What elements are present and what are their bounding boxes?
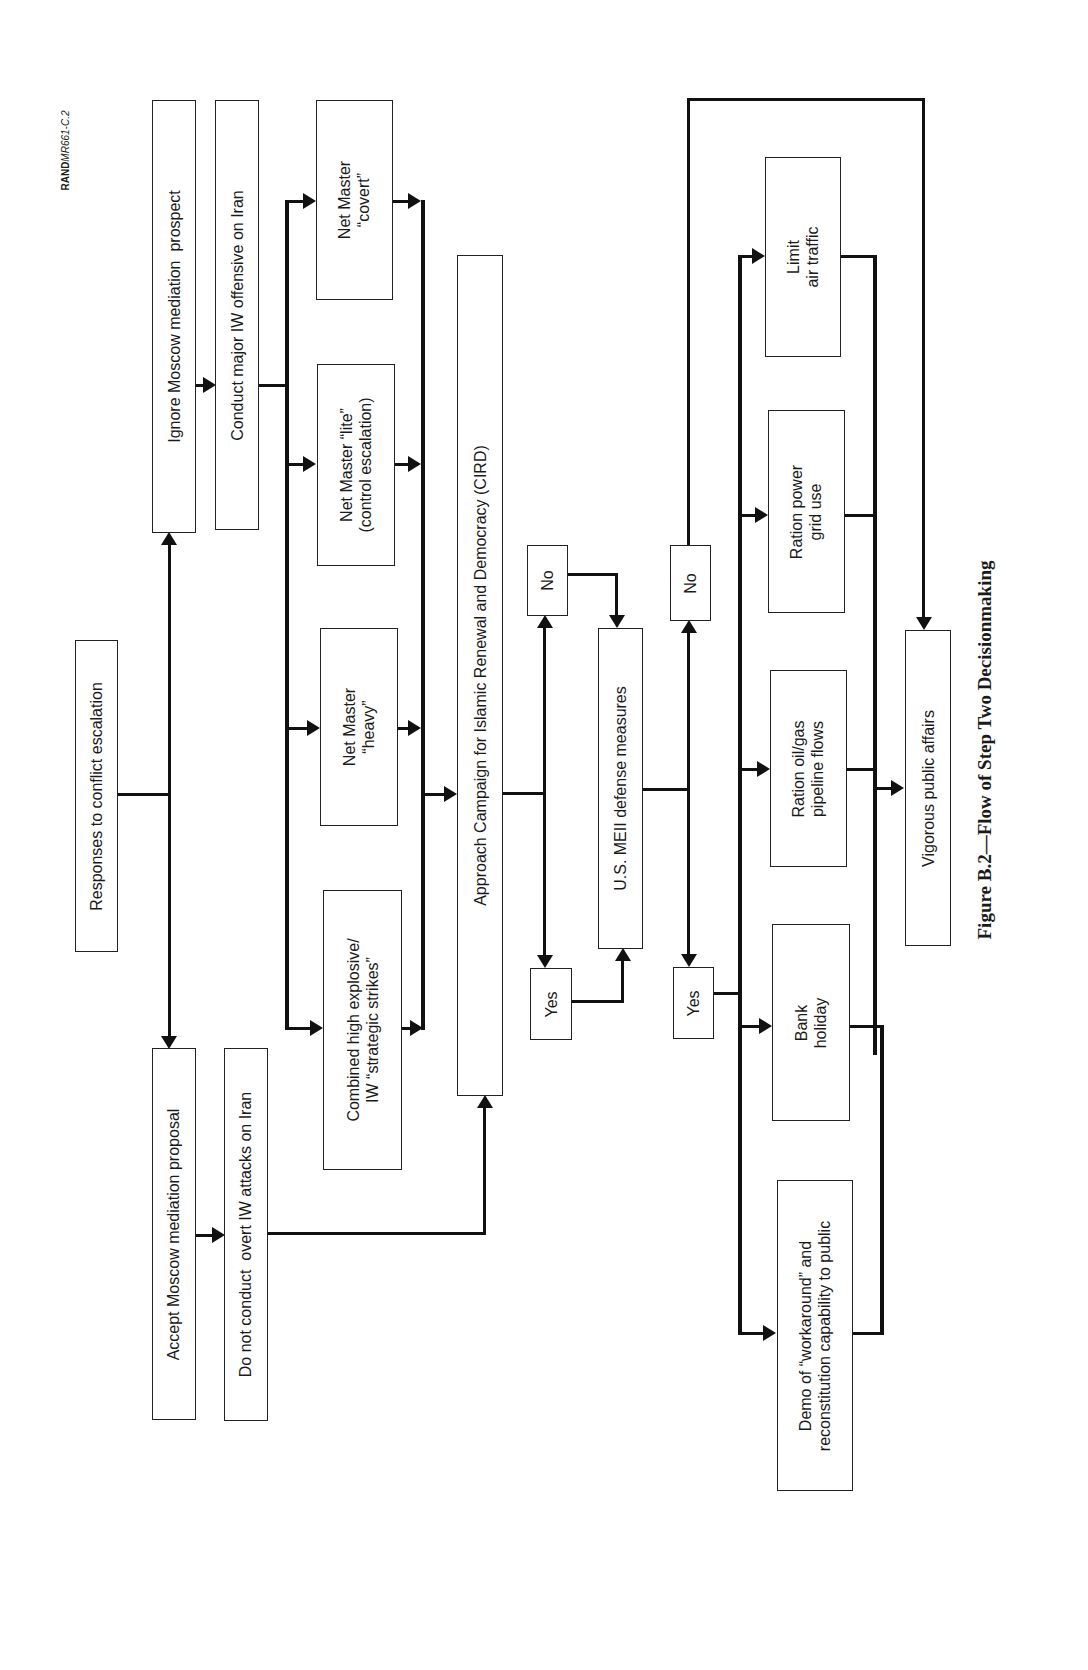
node-ignore-moscow-mediation: Ignore Moscow mediation prospect bbox=[152, 100, 196, 533]
arrow-right-icon bbox=[757, 761, 770, 777]
connector bbox=[268, 1232, 486, 1235]
connector bbox=[502, 792, 546, 795]
arrow-up-icon bbox=[477, 1095, 493, 1108]
connector bbox=[844, 514, 876, 517]
arrow-right-icon bbox=[444, 786, 457, 802]
node-net-master-lite: Net Master “lite” (control escalation) bbox=[317, 364, 395, 566]
connector bbox=[285, 200, 289, 1030]
arrow-right-icon bbox=[310, 1020, 323, 1036]
node-us-meii-defense-measures: U.S. MEII defense measures bbox=[598, 628, 643, 949]
arrow-right-icon bbox=[408, 720, 421, 736]
connector bbox=[615, 573, 618, 616]
arrow-right-icon bbox=[763, 1325, 776, 1341]
connector bbox=[738, 255, 742, 1335]
connector bbox=[738, 1025, 760, 1028]
connector bbox=[285, 200, 305, 203]
connector bbox=[168, 545, 171, 1037]
node-limit-air-traffic: Limit air traffic bbox=[765, 157, 841, 357]
node-do-not-conduct-overt-iw: Do not conduct overt IW attacks on Iran bbox=[224, 1048, 268, 1421]
arrow-up-icon bbox=[537, 615, 553, 628]
connector bbox=[196, 1234, 212, 1237]
connector bbox=[543, 628, 546, 956]
node-net-master-heavy: Net Master “heavy” bbox=[320, 628, 398, 826]
arrow-right-icon bbox=[755, 507, 768, 523]
connector bbox=[922, 98, 925, 618]
connector bbox=[572, 1000, 624, 1003]
arrow-right-icon bbox=[303, 193, 316, 209]
connector bbox=[285, 1027, 310, 1030]
arrow-right-icon bbox=[759, 1018, 772, 1034]
connector bbox=[738, 768, 758, 771]
node-decision-no-2: No bbox=[670, 545, 711, 621]
node-ration-oil-gas: Ration oil/gas pipeline flows bbox=[770, 670, 847, 867]
figure-caption: Figure B.2—Flow of Step Two Decisionmaki… bbox=[965, 500, 1005, 1000]
connector bbox=[873, 1025, 883, 1028]
arrow-right-icon bbox=[307, 720, 320, 736]
connector bbox=[285, 727, 307, 730]
arrow-up-icon bbox=[681, 620, 697, 633]
node-bank-holiday: Bank holiday bbox=[772, 924, 850, 1121]
node-ration-power-grid: Ration power grid use bbox=[768, 410, 845, 613]
node-demo-workaround: Demo of “workaround” and reconstitution … bbox=[777, 1180, 853, 1491]
node-accept-moscow-mediation: Accept Moscow mediation proposal bbox=[152, 1048, 196, 1420]
connector bbox=[876, 787, 892, 790]
connector bbox=[840, 255, 876, 258]
connector bbox=[846, 768, 876, 771]
node-approach-cird: Approach Campaign for Islamic Renewal an… bbox=[457, 255, 503, 1096]
node-vigorous-public-affairs: Vigorous public affairs bbox=[905, 630, 951, 946]
connector bbox=[873, 255, 877, 1055]
arrow-right-icon bbox=[891, 780, 904, 796]
connector bbox=[621, 961, 624, 1003]
arrow-down-icon bbox=[537, 955, 553, 968]
arrow-down-icon bbox=[916, 617, 932, 630]
connector bbox=[738, 514, 756, 517]
arrow-right-icon bbox=[408, 456, 421, 472]
arrow-right-icon bbox=[303, 456, 316, 472]
connector bbox=[424, 793, 446, 796]
node-responses-to-conflict-escalation: Responses to conflict escalation bbox=[75, 640, 118, 952]
connector bbox=[285, 463, 305, 466]
connector bbox=[687, 633, 690, 955]
node-conduct-major-iw-offensive: Conduct major IW offensive on Iran bbox=[215, 100, 259, 530]
arrow-right-icon bbox=[408, 193, 421, 209]
connector bbox=[117, 793, 170, 796]
connector bbox=[880, 1025, 884, 1335]
connector bbox=[567, 573, 618, 576]
connector bbox=[642, 788, 690, 791]
figure-id-label: RANDMR661-C.2 bbox=[55, 95, 75, 205]
arrow-up-icon bbox=[615, 948, 631, 961]
connector bbox=[402, 1027, 410, 1030]
connector bbox=[421, 200, 425, 1030]
node-decision-yes-1: Yes bbox=[530, 968, 572, 1040]
connector bbox=[258, 384, 288, 387]
node-decision-no-1: No bbox=[527, 545, 568, 616]
arrow-down-icon bbox=[681, 954, 697, 967]
connector bbox=[483, 1108, 486, 1235]
node-combined-strategic-strikes: Combined high explosive/ IW “strategic s… bbox=[323, 890, 402, 1170]
arrow-right-icon bbox=[752, 248, 765, 264]
connector bbox=[687, 98, 925, 101]
connector bbox=[738, 1332, 763, 1335]
node-net-master-covert: Net Master “covert” bbox=[316, 100, 393, 300]
arrow-down-icon bbox=[609, 615, 625, 628]
connector bbox=[687, 100, 690, 545]
node-decision-yes-2: Yes bbox=[673, 967, 714, 1039]
connector bbox=[713, 992, 741, 995]
arrow-up-icon bbox=[161, 532, 177, 545]
connector bbox=[849, 1025, 876, 1028]
